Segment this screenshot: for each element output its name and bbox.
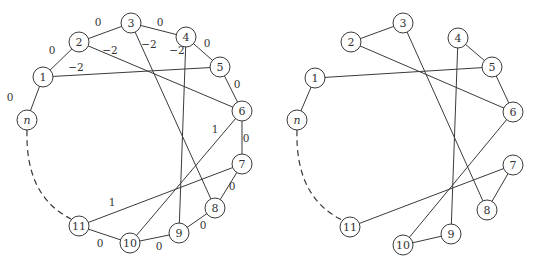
node-label: 10 <box>396 239 410 252</box>
node-10: 10 <box>393 235 413 255</box>
edge-weight-label: 0 <box>156 240 163 252</box>
right-matching-graph: 1234567891011n <box>287 13 523 255</box>
node-8: 8 <box>477 200 497 220</box>
edge-4-9 <box>179 37 186 233</box>
node-label: 9 <box>176 227 183 240</box>
dashed-arc-n-11 <box>27 130 71 219</box>
node-label: n <box>293 114 300 127</box>
graph-canvas: 00000000000−2−2−2−2111234567891011n 1234… <box>0 0 542 266</box>
edge-weight-label: 0 <box>49 44 56 56</box>
node-label: 7 <box>239 158 246 171</box>
edge-weight-label: 0 <box>243 132 250 144</box>
node-11: 11 <box>69 216 89 236</box>
edge-4-9 <box>451 38 458 234</box>
node-7: 7 <box>232 154 252 174</box>
node-label: 4 <box>455 32 462 45</box>
node-label: 6 <box>510 106 517 119</box>
edge-weight-label: 0 <box>95 16 102 28</box>
node-2: 2 <box>341 32 361 52</box>
node-3: 3 <box>393 13 413 33</box>
edge-2-6 <box>351 42 513 112</box>
node-11: 11 <box>340 217 360 237</box>
node-label: 8 <box>484 204 491 217</box>
node-3: 3 <box>121 13 141 33</box>
edge-weight-label: 1 <box>212 123 219 135</box>
node-1: 1 <box>305 68 325 88</box>
left-weighted-graph: 00000000000−2−2−2−2111234567891011n <box>7 13 252 253</box>
node-7: 7 <box>503 155 523 175</box>
edge-weight-label: 0 <box>229 180 236 192</box>
node-5: 5 <box>210 57 230 77</box>
node-label: 9 <box>448 228 455 241</box>
node-label: 3 <box>128 17 135 30</box>
node-label: 10 <box>123 237 137 250</box>
node-2: 2 <box>69 32 89 52</box>
node-label: 3 <box>400 17 407 30</box>
node-label: 11 <box>72 220 86 233</box>
edge-weight-label: 1 <box>109 196 116 208</box>
node-label: 2 <box>76 36 83 49</box>
edge-weight-label: −2 <box>102 44 117 56</box>
edge-1-5 <box>315 67 492 78</box>
edge-weight-label: 0 <box>204 37 211 49</box>
node-label: 4 <box>183 31 190 44</box>
node-5: 5 <box>482 57 502 77</box>
edge-6-10 <box>130 111 242 243</box>
node-label: 8 <box>212 202 219 215</box>
node-1: 1 <box>33 67 53 87</box>
dashed-arc-n-11 <box>297 130 342 220</box>
node-label: 1 <box>40 71 47 84</box>
node-4: 4 <box>448 28 468 48</box>
node-n: n <box>287 110 307 130</box>
node-9: 9 <box>441 224 461 244</box>
node-label: 2 <box>348 36 355 49</box>
node-6: 6 <box>503 102 523 122</box>
edge-3-8 <box>403 23 487 210</box>
edge-weight-label: 0 <box>200 219 207 231</box>
edge-weight-label: −2 <box>68 61 83 73</box>
edge-weight-label: 0 <box>97 237 104 249</box>
node-n: n <box>17 110 37 130</box>
node-label: 5 <box>217 61 224 74</box>
node-label: 11 <box>343 221 357 234</box>
edge-weight-label: 0 <box>234 78 241 90</box>
node-6: 6 <box>232 101 252 121</box>
edge-weight-label: 0 <box>7 91 14 103</box>
node-8: 8 <box>205 198 225 218</box>
node-10: 10 <box>120 233 140 253</box>
node-label: 5 <box>489 61 496 74</box>
edge-6-10 <box>403 112 513 245</box>
edge-weight-label: 0 <box>157 16 164 28</box>
node-label: 1 <box>312 72 319 85</box>
node-9: 9 <box>169 223 189 243</box>
node-label: 6 <box>239 105 246 118</box>
node-label: n <box>23 114 30 127</box>
edge-weight-label: −2 <box>141 38 156 50</box>
node-4: 4 <box>176 27 196 47</box>
node-label: 7 <box>510 159 517 172</box>
